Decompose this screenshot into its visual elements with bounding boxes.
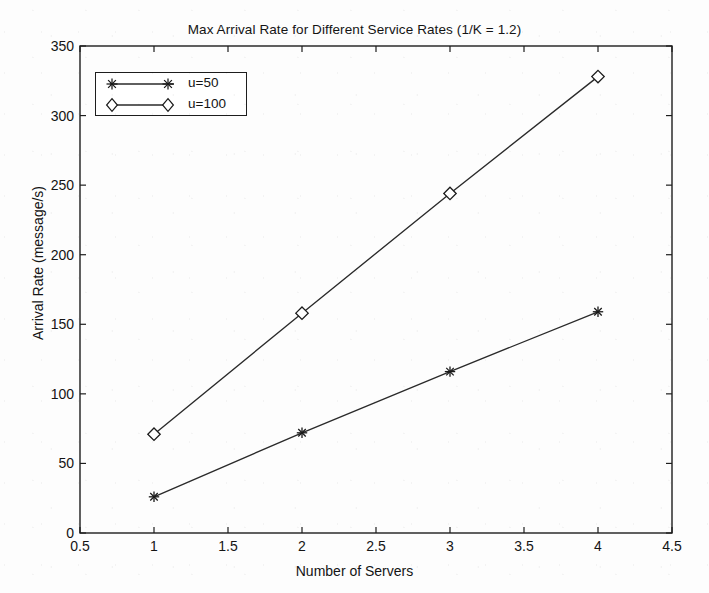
x-tick-label: 2	[272, 538, 332, 554]
legend-marker-asterisk-icon	[104, 73, 182, 95]
x-tick-label: 1	[124, 538, 184, 554]
legend: u=50 u=100	[95, 72, 247, 116]
legend-label-1: u=100	[188, 96, 226, 111]
x-tick-label: 0.5	[50, 538, 110, 554]
legend-item-0: u=50	[96, 73, 248, 95]
x-tick-label: 4.5	[642, 538, 702, 554]
figure-canvas: Max Arrival Rate for Different Service R…	[0, 0, 709, 593]
x-tick-label: 3.5	[494, 538, 554, 554]
legend-marker-diamond-icon	[104, 94, 182, 116]
legend-item-1: u=100	[96, 94, 248, 116]
x-tick-label: 1.5	[198, 538, 258, 554]
x-tick-label: 3	[420, 538, 480, 554]
legend-label-0: u=50	[188, 75, 218, 90]
x-tick-label: 2.5	[346, 538, 406, 554]
x-tick-label: 4	[568, 538, 628, 554]
